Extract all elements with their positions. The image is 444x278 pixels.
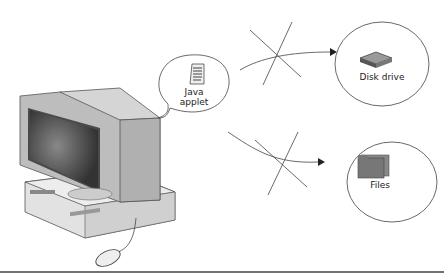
files-label: Files — [350, 180, 410, 190]
blocked-arrow-files — [228, 132, 325, 195]
blocked-arrow-disk — [240, 22, 337, 85]
bubble-line1: Java — [172, 87, 216, 97]
folder-icon — [358, 155, 389, 178]
document-icon — [190, 64, 204, 84]
mouse — [93, 246, 122, 270]
disk-drive-label: Disk drive — [340, 72, 424, 82]
diagram-canvas — [0, 0, 444, 278]
bubble-line2: applet — [172, 97, 216, 107]
